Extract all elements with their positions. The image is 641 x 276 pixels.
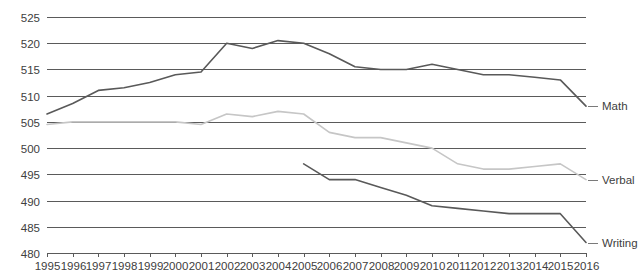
x-axis-tick-label: 2015 bbox=[548, 260, 574, 272]
y-axis-tick-label: 500 bbox=[21, 143, 40, 155]
y-axis-tick-label: 485 bbox=[21, 222, 40, 234]
series-labels-group: MathVerbalWriting bbox=[588, 100, 638, 248]
x-axis-tick-label: 2003 bbox=[240, 260, 266, 272]
series-label-writing: Writing bbox=[602, 237, 638, 249]
series-line-writing bbox=[304, 164, 586, 243]
x-axis-tick-label: 2012 bbox=[471, 260, 497, 272]
y-axis-tick-label: 505 bbox=[21, 117, 40, 129]
x-axis-tick-label: 1999 bbox=[138, 260, 164, 272]
chart-canvas: 480485490495500505510515520525 199519961… bbox=[0, 0, 641, 276]
sat-scores-line-chart: 480485490495500505510515520525 199519961… bbox=[0, 0, 641, 276]
x-axis-tick-label: 2010 bbox=[420, 260, 446, 272]
x-axis-tick-label: 2002 bbox=[215, 260, 241, 272]
x-axis-tick-label: 2001 bbox=[189, 260, 215, 272]
x-axis-tick-label: 2004 bbox=[266, 260, 292, 272]
x-axis-tick-label: 2006 bbox=[317, 260, 343, 272]
y-axis-tick-label: 495 bbox=[21, 169, 40, 181]
y-axis-tick-label: 525 bbox=[21, 12, 40, 24]
x-axis-tick-label: 2011 bbox=[446, 260, 471, 272]
x-axis-tick-label: 2000 bbox=[163, 260, 189, 272]
x-axis-tick-labels: 1995199619971998199920002001200220032004… bbox=[35, 260, 600, 272]
x-axis-tick-label: 2013 bbox=[497, 260, 523, 272]
x-axis-tick-label: 1998 bbox=[112, 260, 138, 272]
series-line-math bbox=[47, 41, 586, 114]
series-label-verbal: Verbal bbox=[602, 174, 635, 186]
x-axis-tick-label: 2014 bbox=[523, 260, 549, 272]
gridlines-group bbox=[47, 18, 586, 254]
x-axis-tick-label: 2009 bbox=[394, 260, 420, 272]
x-axis-tick-label: 2005 bbox=[292, 260, 318, 272]
y-axis-tick-label: 515 bbox=[21, 64, 40, 76]
y-axis-tick-label: 490 bbox=[21, 196, 40, 208]
y-axis-tick-label: 480 bbox=[21, 248, 40, 260]
y-axis-tick-labels: 480485490495500505510515520525 bbox=[21, 12, 40, 260]
x-axis-tick-label: 1996 bbox=[61, 260, 87, 272]
x-axis-tick-label: 1995 bbox=[35, 260, 61, 272]
x-axis-tick-label: 1997 bbox=[86, 260, 112, 272]
y-axis-tick-label: 510 bbox=[21, 91, 40, 103]
x-axis-tick-label: 2016 bbox=[574, 260, 600, 272]
y-axis-tick-label: 520 bbox=[21, 38, 40, 50]
x-axis-tick-label: 2007 bbox=[343, 260, 369, 272]
series-label-math: Math bbox=[602, 100, 628, 112]
series-line-verbal bbox=[47, 111, 586, 179]
x-axis-tick-label: 2008 bbox=[369, 260, 395, 272]
data-series-group bbox=[47, 41, 586, 243]
